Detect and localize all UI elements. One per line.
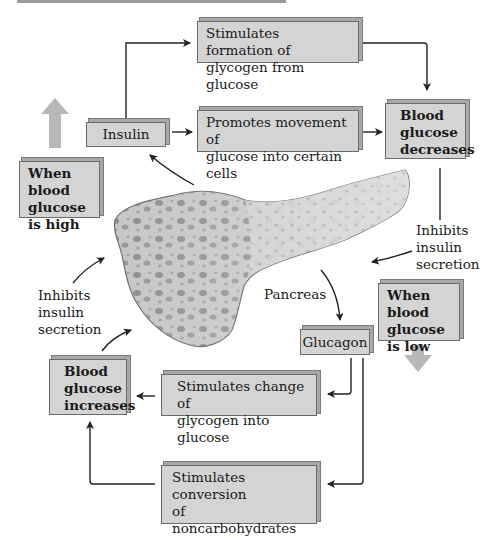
box-promotes-movement: Promotes movement of glucose into certai…: [197, 110, 359, 152]
connector-glucagon-to-conversion: [328, 358, 363, 484]
box-blood-glucose-increases: Blood glucose increases: [49, 359, 127, 415]
connector-inhibits-right: [372, 251, 412, 262]
pancreas-illustration: [115, 170, 410, 347]
box-blood-glucose-decreases: Blood glucose decreases: [385, 103, 466, 159]
connector-pancreas-to-insulin: [150, 155, 194, 185]
box-glucagon: Glucagon: [300, 329, 370, 355]
label-pancreas: Pancreas: [264, 286, 326, 303]
box-when-low: When blood glucose is low: [378, 283, 460, 341]
connector-glycogen-formation-to-decreases: [361, 43, 427, 90]
up-arrow-icon: [41, 98, 69, 148]
box-stimulates-glycogen-formation: Stimulates formation of glycogen from gl…: [197, 21, 359, 63]
box-insulin: Insulin: [86, 122, 166, 147]
connector-inhibits-left: [73, 258, 104, 283]
box-stimulates-glycogen-change: Stimulates change of glycogen into gluco…: [161, 374, 317, 416]
connector-conversion-to-increases: [90, 422, 155, 484]
box-stimulates-conversion: Stimulates conversion of noncarbohydrate…: [161, 465, 317, 524]
label-inhibits-insulin-left: Inhibits insulin secretion: [38, 287, 102, 338]
box-when-high: When blood glucose is high: [19, 161, 100, 218]
label-inhibits-insulin-right: Inhibits insulin secretion: [416, 222, 480, 273]
connector-glucagon-to-change: [328, 358, 351, 394]
connector-insulin-to-glycogen-formation: [126, 43, 190, 123]
connector-increases-to-pancreas: [102, 330, 131, 351]
